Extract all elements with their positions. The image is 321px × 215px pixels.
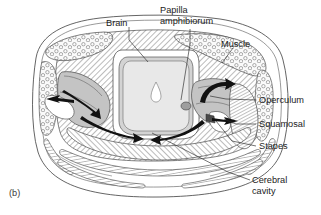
anatomical-cross-section-diagram: Brain Papilla amphibiorum Muscle Opercul… xyxy=(0,0,321,215)
label-squamosal: Squamosal xyxy=(259,119,305,129)
label-stapes: Stapes xyxy=(259,141,288,151)
papilla-amphibiorum-structure xyxy=(181,102,191,110)
label-papilla-line2: amphibiorum xyxy=(160,16,213,26)
label-operculum: Operculum xyxy=(259,95,304,105)
label-brain: Brain xyxy=(106,18,127,28)
label-papilla-line1: Papilla xyxy=(160,5,188,15)
figure-container: Brain Papilla amphibiorum Muscle Opercul… xyxy=(0,0,321,215)
label-cerebral-cavity-line1: Cerebral xyxy=(252,175,287,185)
label-muscle: Muscle xyxy=(221,39,250,49)
label-cerebral-cavity-line2: cavity xyxy=(252,186,276,196)
panel-label: (b) xyxy=(9,188,20,198)
